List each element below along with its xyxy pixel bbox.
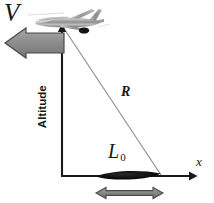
velocity-label: V <box>4 0 19 25</box>
footprint-patch <box>96 171 161 180</box>
footprint-label: L0 <box>108 141 125 161</box>
geometry-diagram: V Altitude R L0 x <box>0 0 214 203</box>
footprint-measure-arrow <box>96 187 163 198</box>
footprint-label-symbol: L <box>108 140 119 162</box>
velocity-arrow <box>5 28 64 58</box>
diagram-canvas <box>0 0 214 203</box>
footprint-label-subscript: 0 <box>120 151 126 163</box>
range-label: R <box>121 85 130 99</box>
altitude-label: Altitude <box>37 61 49 153</box>
airplane-icon <box>28 9 110 34</box>
x-axis-label: x <box>196 155 202 168</box>
